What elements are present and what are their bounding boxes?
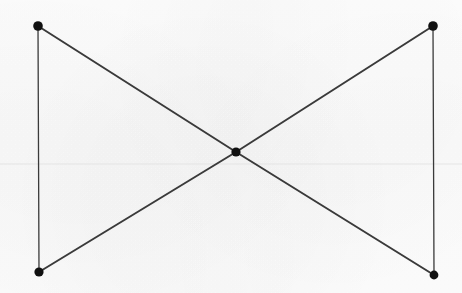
edge-center-bl	[39, 152, 236, 272]
edge-tl-center	[38, 26, 236, 152]
edge-tr-br	[433, 26, 434, 275]
edge-center-br	[236, 152, 434, 275]
graph-figure	[0, 0, 462, 293]
edge-tl-bl	[38, 26, 39, 272]
graph-node-bottom-left	[34, 267, 43, 276]
graph-node-top-right	[428, 21, 438, 31]
edge-tr-center	[236, 26, 433, 152]
graph-node-top-left	[33, 21, 43, 31]
graph-node-center	[231, 147, 240, 156]
diagram-canvas	[0, 0, 462, 293]
graph-node-bottom-right	[430, 271, 439, 280]
